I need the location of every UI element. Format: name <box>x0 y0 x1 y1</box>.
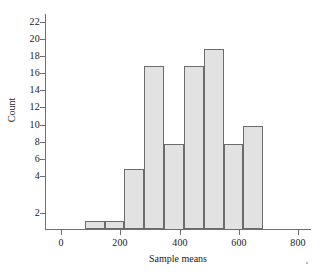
histogram-bar <box>164 144 184 230</box>
histogram-bar <box>224 144 244 230</box>
histogram-bar <box>243 126 263 229</box>
histogram-bar <box>204 49 224 230</box>
x-axis-label: Sample means <box>45 254 311 264</box>
histogram-figure: 22 20 18 16 14 12 10 8 6 4 2 0 200 400 6… <box>0 0 322 275</box>
histogram-bar <box>184 66 204 229</box>
scan-speck <box>306 262 308 264</box>
histogram-bar <box>105 221 125 230</box>
histogram-bars <box>0 0 322 275</box>
y-axis-label: Count <box>7 75 17 145</box>
histogram-bar <box>85 221 105 230</box>
histogram-bar <box>124 169 144 229</box>
histogram-bar <box>144 66 164 229</box>
